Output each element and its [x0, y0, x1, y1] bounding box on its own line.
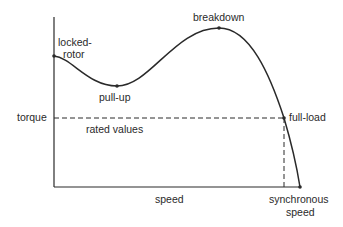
- full-load-point: [282, 116, 286, 120]
- locked-rotor-label-1: locked-: [58, 36, 92, 48]
- torque-curve: [54, 28, 300, 187]
- torque-axis-label: torque: [17, 111, 47, 123]
- breakdown-point: [217, 26, 221, 30]
- pull-up-point: [115, 84, 119, 88]
- speed-axis-label: speed: [155, 193, 184, 205]
- rated-values-label: rated values: [86, 123, 143, 135]
- synchronous-label-2: speed: [286, 206, 315, 218]
- locked-rotor-point: [52, 54, 56, 58]
- synchronous-label-1: synchronous: [269, 193, 329, 205]
- torque-speed-diagram: locked- rotor pull-up breakdown full-loa…: [0, 0, 343, 227]
- locked-rotor-label-2: rotor: [63, 48, 85, 60]
- synchronous-speed-point: [298, 185, 302, 189]
- pull-up-label: pull-up: [99, 91, 131, 103]
- breakdown-label: breakdown: [193, 11, 245, 23]
- full-load-label: full-load: [289, 111, 326, 123]
